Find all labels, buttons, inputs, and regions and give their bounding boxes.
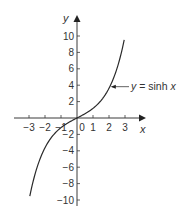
curve-annotation: y = sinh x xyxy=(111,80,177,92)
y-tick-label: −6 xyxy=(63,162,75,173)
x-axis-arrow-icon xyxy=(139,115,146,122)
y-tick-label: −8 xyxy=(63,178,75,189)
x-tick-label: 3 xyxy=(122,122,128,133)
annotation-text: y = sinh x xyxy=(130,80,176,92)
y-tick-label: −2 xyxy=(63,129,75,140)
y-tick-label: 10 xyxy=(63,31,75,42)
x-tick-label: 2 xyxy=(106,122,112,133)
y-tick-label: 6 xyxy=(68,63,74,74)
y-tick-label: −4 xyxy=(63,145,75,156)
y-tick-label: 8 xyxy=(68,47,74,58)
y-tick-label: −10 xyxy=(57,195,74,206)
y-tick-label: 4 xyxy=(68,80,74,91)
y-axis-arrow-icon xyxy=(74,15,81,22)
x-tick-label: −3 xyxy=(23,122,35,133)
x-tick-label: 1 xyxy=(90,122,96,133)
x-tick-label: 0 xyxy=(79,122,85,133)
y-tick-label: 2 xyxy=(68,96,74,107)
sinh-chart: xy −3−2−10123108642−2−4−6−8−10 y = sinh … xyxy=(0,0,179,223)
x-axis-label: x xyxy=(139,123,146,135)
x-tick-label: −2 xyxy=(39,122,51,133)
annotation-arrow-icon xyxy=(111,85,116,89)
y-axis-label: y xyxy=(62,12,70,24)
